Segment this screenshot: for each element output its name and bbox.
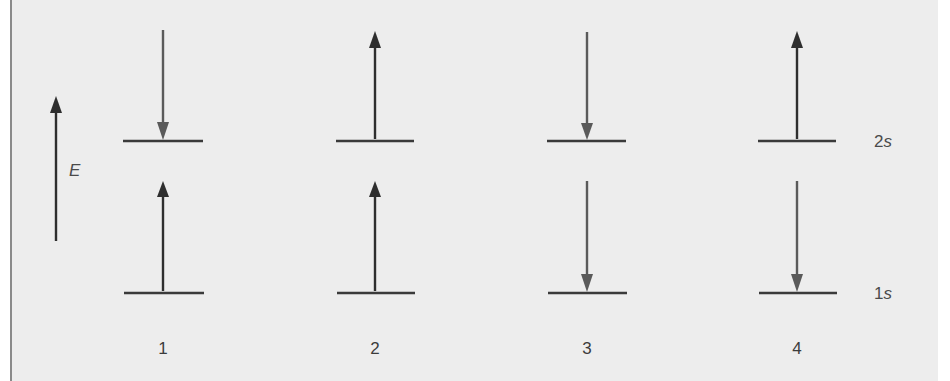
configuration-3	[547, 32, 627, 293]
spin-up-arrow-icon	[157, 181, 169, 291]
configuration-2	[336, 31, 415, 293]
spin-down-arrow-icon	[581, 32, 593, 140]
configuration-1	[123, 30, 204, 293]
spin-down-arrow-icon	[581, 181, 593, 292]
energy-axis-arrow-icon	[50, 96, 62, 241]
spin-up-arrow-icon	[791, 31, 803, 139]
configuration-label-3: 3	[582, 340, 591, 357]
configuration-label-4: 4	[792, 340, 801, 357]
configuration-4	[758, 31, 837, 293]
spin-up-arrow-icon	[369, 181, 381, 291]
configuration-label-2: 2	[370, 340, 379, 357]
energy-level-diagram	[0, 0, 950, 381]
level-1s-orbital: s	[883, 284, 892, 303]
configuration-label-1: 1	[158, 340, 167, 357]
level-2s-orbital: s	[883, 132, 892, 151]
spin-down-arrow-icon	[157, 30, 169, 140]
level-label-2s: 2s	[874, 133, 892, 150]
energy-axis-label: E	[69, 162, 80, 179]
spin-down-arrow-icon	[791, 181, 803, 292]
level-label-1s: 1s	[874, 285, 892, 302]
spin-up-arrow-icon	[369, 31, 381, 139]
